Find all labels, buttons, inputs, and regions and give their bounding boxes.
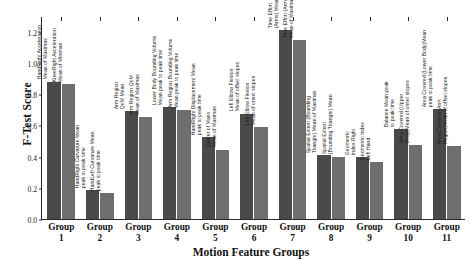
- bar-group: Area Covered (Lower Body)Meanpeak to pea…: [433, 17, 461, 219]
- y-axis-tick-mark: [39, 126, 43, 127]
- x-axis-title: Motion Feature Groups: [36, 246, 466, 258]
- bar[interactable]: Left Elbow FlexionMean of onset slopes: [254, 127, 267, 219]
- bar-value-label: Left Elbow FlexionMean of offset slopes: [229, 62, 240, 111]
- y-axis-tick-label: 0.6: [12, 122, 37, 131]
- bar-value-label: HandRight Displacement Meanpeak to peak …: [191, 63, 202, 135]
- x-axis-tick-label: Group2: [81, 222, 120, 243]
- bar[interactable]: Arm Region QoMMean of Maximas: [139, 117, 152, 219]
- bar-label-line: Index Right: [350, 129, 356, 155]
- y-axis-tick-label: 1.2: [12, 28, 37, 37]
- bar-value-label: Spatial Extent(Bounding Triangle) Mean: [322, 95, 333, 155]
- x-axis-tick-mark: [138, 17, 139, 21]
- bar-label-line: Mean of Maximas: [134, 74, 140, 115]
- bar-group: Time Effort(Arms) MeanTime Effort (Arms)…: [279, 17, 307, 219]
- bar[interactable]: HandRight AccelerationMean of Maximas: [47, 82, 60, 219]
- bar[interactable]: Area Covered (UpperBody)Mean of onset sl…: [409, 145, 422, 219]
- y-axis-tick-mark: [39, 95, 43, 96]
- x-axis-tick-line: Group: [42, 222, 81, 233]
- bar-value-label: Spatial Extent (BoundingTriangle) Mean o…: [306, 90, 317, 153]
- y-axis-tick-label: 1.0: [12, 59, 37, 68]
- x-axis-tick-line: 3: [119, 233, 158, 244]
- x-axis-tick-label: Group7: [273, 222, 312, 243]
- bar-value-label: Arm RegionQoM Mean: [114, 82, 125, 109]
- x-axis-tick-line: 4: [158, 233, 197, 244]
- bar-value-label: GeometricIndex Right: [345, 129, 356, 155]
- x-axis-tick-line: Group: [350, 222, 389, 233]
- bar-label-line: (Arms) Mean: [273, 0, 279, 28]
- bar-group: Arm RegionQoM MeanArm Region QoMMean of …: [124, 17, 152, 219]
- bar[interactable]: Spatial Extent (BoundingTriangle) Mean o…: [317, 155, 330, 219]
- bar-group-bars: HandRight AccelerationMean of MaximasKne…: [47, 17, 75, 219]
- x-axis-tick-mark: [254, 17, 255, 21]
- y-axis-tick-label: 0.4: [12, 153, 37, 162]
- x-axis-tick-mark: [100, 17, 101, 21]
- bar[interactable]: Geometric IndexLeft Hand: [370, 162, 383, 219]
- y-axis-tick-mark: [39, 188, 43, 189]
- y-axis-tick-label: 0.8: [12, 91, 37, 100]
- bar-label-line: Triangle) Mean of Maximas: [312, 90, 318, 153]
- bar[interactable]: Left Elbow FlexionMean of offset slopes: [240, 114, 253, 219]
- plot-area: HandRight AccelerationMean of MaximasKne…: [41, 17, 465, 220]
- bar-label-line: Mean of onset slopes: [250, 75, 256, 124]
- plot-inner: HandRight AccelerationMean of MaximasKne…: [42, 17, 465, 219]
- x-axis-tick-mark: [293, 17, 294, 21]
- bar-label-line: to peak time: [389, 81, 395, 127]
- bar-label-line: Mean peak to peak time: [173, 39, 179, 109]
- bar-value-label: Left Elbow FlexionMean of onset slopes: [244, 75, 255, 124]
- bar-label-line: peak to peak time: [81, 125, 87, 188]
- x-axis-tick-line: 1: [42, 233, 81, 244]
- bar-label-line: QoM Mean: [119, 82, 125, 109]
- bar[interactable]: Time Effort(Arms) Mean: [279, 30, 292, 219]
- bar[interactable]: Arm RegionQoM Mean: [125, 111, 138, 219]
- bar-value-label: Center of MassMean of Maximas: [206, 107, 217, 148]
- x-axis-tick-label: Group3: [119, 222, 158, 243]
- bar-label-line: Mean of Minimas: [57, 28, 63, 82]
- x-axis-tick-label: Group4: [158, 222, 197, 243]
- x-axis-tick-mark: [61, 17, 62, 21]
- bar-group-bars: Area Covered (Lower Body)Meanpeak to pea…: [433, 17, 461, 219]
- bar[interactable]: HandRight Displacement Meanpeak to peak …: [202, 137, 215, 219]
- bar[interactable]: GeometricIndex Right: [356, 157, 369, 219]
- bar[interactable]: Spatial Extent(Bounding Triangle) Mean: [332, 157, 345, 219]
- bar[interactable]: HandLeft Curvature Meanpeak to peak time: [100, 193, 113, 219]
- x-axis-tick-line: Group: [158, 222, 197, 233]
- bar-label-line: Left Hand: [366, 122, 372, 160]
- x-axis-tick-mark: [370, 17, 371, 21]
- bar-group-bars: Left Elbow FlexionMean of offset slopesL…: [240, 17, 268, 219]
- y-axis-tick-label: 0.0: [12, 216, 37, 225]
- bar[interactable]: HandRight Curvature Meanpeak to peak tim…: [86, 190, 99, 219]
- bar-label-line: Body)Mean of onset slopes: [404, 80, 410, 143]
- bar[interactable]: Center of MassMean of Maximas: [216, 150, 229, 219]
- bar-group: Lower Body Bounding VolumeMean peak to p…: [163, 17, 191, 219]
- bar[interactable]: Arm Region Bounding VolumeMean peak to p…: [177, 110, 190, 219]
- bar-value-label: Balance Mean peakto peak time: [383, 81, 394, 127]
- x-axis-tick-label: Group11: [427, 222, 466, 243]
- bar-group-bars: HandRight Displacement Meanpeak to peak …: [202, 17, 230, 219]
- x-axis-tick-label: Group6: [235, 222, 274, 243]
- x-axis-tick-line: Group: [427, 222, 466, 233]
- y-axis-tick-mark: [39, 220, 43, 221]
- bar-value-label: Arm Region Bounding VolumeMean peak to p…: [167, 39, 178, 109]
- x-axis-tick-label: Group10: [389, 222, 428, 243]
- y-axis-tick-label: 0.2: [12, 184, 37, 193]
- x-axis-tick-label: Group5: [196, 222, 235, 243]
- x-axis-tick-line: 5: [196, 233, 235, 244]
- x-axis-tick-line: Group: [119, 222, 158, 233]
- x-axis-tick-line: Group: [273, 222, 312, 233]
- bar[interactable]: Lower Body Bounding VolumeMean peak to p…: [163, 107, 176, 219]
- bar-value-label: HandLeft Curvature Meanpeak to peak time: [90, 131, 101, 191]
- bar-value-label: Area Covered (Lower Body)Meanpeak to pea…: [422, 30, 433, 107]
- bar-label-line: Mean of Maximas: [212, 107, 218, 148]
- bar[interactable]: Area Covered (ArmRegion)Mean of offset s…: [447, 146, 460, 219]
- x-axis-tick-line: 10: [389, 233, 428, 244]
- y-axis-tick-mark: [39, 63, 43, 64]
- x-axis-tick-mark: [447, 17, 448, 21]
- bar-label-line: Mean peak to peak time: [158, 36, 164, 106]
- y-axis-tick-mark: [39, 157, 43, 158]
- bar-group-bars: Balance Mean peakto peak timeArea Covere…: [394, 17, 422, 219]
- bar-label-line: Mean of Maximas: [42, 25, 48, 79]
- bar-value-label: Area Covered (ArmRegion)Mean of offset s…: [437, 77, 448, 145]
- bar-group: Spatial Extent (BoundingTriangle) Mean o…: [317, 17, 345, 219]
- bar-group: Left Elbow FlexionMean of offset slopesL…: [240, 17, 268, 219]
- bar-value-label: HandRight AccelerationMean of Maximas: [36, 25, 47, 79]
